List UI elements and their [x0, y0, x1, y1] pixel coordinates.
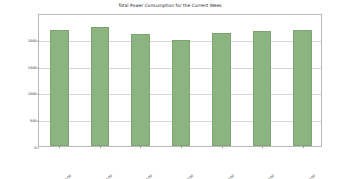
- y-tick-label: 2000: [11, 39, 37, 43]
- x-tick-label: 2023-10-04 00:00:00: [126, 173, 154, 179]
- x-tick-label: 2023-10-08 00:00:00: [288, 173, 316, 179]
- x-tick-label: 2023-10-05 00:00:00: [166, 173, 194, 179]
- y-tick-label: 500: [11, 119, 37, 123]
- x-tick-label: 2023-10-02 00:00:00: [45, 173, 73, 179]
- bar: [91, 27, 110, 146]
- x-tick-mark: [222, 146, 223, 148]
- chart-figure: Total Power Consumption for the Current …: [0, 0, 340, 179]
- x-tick-mark: [181, 146, 182, 148]
- bar: [50, 30, 69, 146]
- y-axis-label: Total Power Consumed (kWh): [12, 0, 20, 21]
- x-tick-label: 2023-10-07 00:00:00: [248, 173, 276, 179]
- x-tick-mark: [140, 146, 141, 148]
- y-tick-mark: [37, 148, 39, 149]
- plot-area: 0500100015002000 2023-10-02 00:00:002023…: [38, 14, 322, 147]
- x-tick-mark: [59, 146, 60, 148]
- bar-series: [39, 15, 321, 146]
- y-tick-label: 0: [11, 146, 37, 150]
- bar: [253, 31, 272, 146]
- x-tick-mark: [303, 146, 304, 148]
- y-tick-label: 1000: [11, 92, 37, 96]
- x-tick-mark: [262, 146, 263, 148]
- bar: [293, 30, 312, 146]
- x-tick-label: 2023-10-06 00:00:00: [207, 173, 235, 179]
- x-tick-mark: [100, 146, 101, 148]
- bar: [212, 33, 231, 146]
- y-tick-label: 1500: [11, 66, 37, 70]
- x-tick-label: 2023-10-03 00:00:00: [85, 173, 113, 179]
- chart-title: Total Power Consumption for the Current …: [0, 3, 340, 8]
- bar: [131, 34, 150, 146]
- bar: [172, 40, 191, 146]
